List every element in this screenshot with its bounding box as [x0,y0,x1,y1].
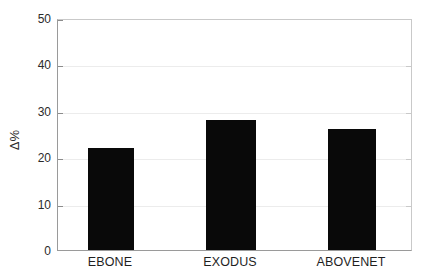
y-tick-mark-50 [58,20,63,21]
y-tick-label-40: 40 [0,58,51,72]
x-tick-label-abovenet: ABOVENET [317,255,386,269]
y-axis-title: Δ% [7,130,22,150]
y-tick-mark-right-40 [406,66,411,67]
y-tick-label-50: 50 [0,12,51,26]
bar-abovenet [328,129,376,250]
bar-chart-figure: Δ% 0 10 20 30 40 50 EBONE EXODUS ABOVENE… [0,0,435,279]
plot-area [57,19,412,251]
y-tick-mark-right-10 [406,206,411,207]
x-tick-label-ebone: EBONE [88,255,132,269]
y-tick-label-20: 20 [0,151,51,165]
gridline-30 [58,113,411,114]
y-tick-label-0: 0 [0,244,51,258]
x-tick-label-exodus: EXODUS [203,255,256,269]
y-tick-mark-right-30 [406,113,411,114]
y-tick-mark-40 [58,66,63,67]
y-tick-label-30: 30 [0,105,51,119]
y-tick-label-10: 10 [0,198,51,212]
y-tick-mark-20 [58,159,63,160]
y-tick-mark-30 [58,113,63,114]
gridline-40 [58,66,411,67]
bar-ebone [88,148,134,250]
bar-exodus [206,120,256,250]
y-tick-mark-10 [58,206,63,207]
y-tick-mark-right-20 [406,159,411,160]
